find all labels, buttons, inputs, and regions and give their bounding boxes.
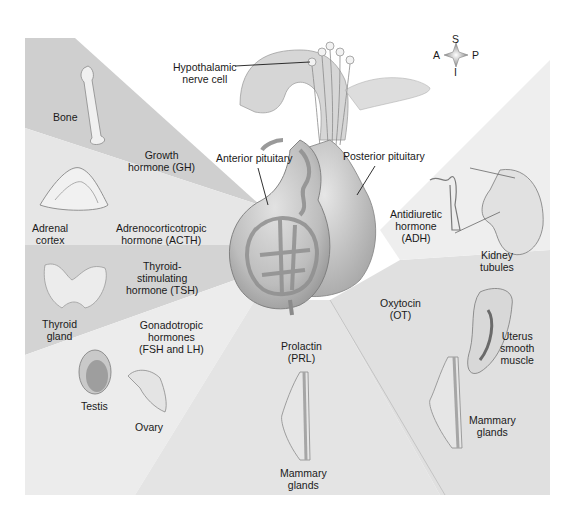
label-target-ovary: Ovary [135, 421, 163, 433]
hypothalamus-illustration [240, 42, 430, 145]
label-target-thyroid-gland: Thyroid gland [42, 318, 77, 342]
label-target-kidney-tubules: Kidney tubules [480, 249, 514, 273]
pituitary-diagram: S A P I Hypothalamic nerve cell Anterior… [0, 0, 577, 518]
label-hormone-gh: Growth hormone (GH) [128, 149, 195, 173]
label-hormone-tsh: Thyroid- stimulating hormone (TSH) [126, 260, 198, 296]
label-anterior-pituitary: Anterior pituitary [216, 152, 292, 164]
label-hormone-acth: Adrenocorticotropic hormone (ACTH) [116, 222, 206, 246]
compass-inferior: I [454, 66, 457, 78]
label-target-adrenal-cortex: Adrenal cortex [32, 222, 68, 246]
compass-anterior: A [433, 49, 440, 61]
compass-superior: S [452, 33, 459, 45]
label-hormone-adh: Antidiuretic hormone (ADH) [390, 208, 442, 244]
label-hormone-gonadotropic: Gonadotropic hormones (FSH and LH) [139, 319, 204, 355]
label-target-mammary-glands-prl: Mammary glands [280, 467, 327, 491]
label-target-bone: Bone [53, 111, 78, 123]
label-hormone-prl: Prolactin (PRL) [281, 340, 322, 364]
label-target-mammary-glands-ot: Mammary glands [469, 414, 516, 438]
compass-posterior: P [472, 49, 479, 61]
label-hormone-ot: Oxytocin (OT) [380, 297, 421, 321]
compass-rose-icon [444, 43, 468, 67]
label-posterior-pituitary: Posterior pituitary [343, 150, 425, 162]
testis-illustration [79, 350, 111, 394]
label-target-testis: Testis [81, 400, 108, 412]
label-target-uterus: Uterus smooth muscle [500, 330, 534, 366]
label-hypothalamic-nerve-cell: Hypothalamic nerve cell [173, 61, 237, 85]
